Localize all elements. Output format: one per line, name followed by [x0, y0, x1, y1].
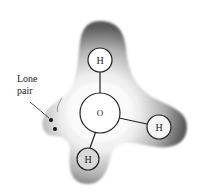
hydronium-diagram: O H H H Lone pair — [0, 0, 202, 196]
lone-pair-label: Lone pair — [17, 73, 49, 118]
atom-oxygen: O — [80, 93, 120, 133]
atom-hydrogen-top: H — [88, 48, 112, 72]
atom-hydrogen-bottom: H — [77, 148, 99, 170]
hydrogen-right-symbol: H — [155, 122, 162, 133]
lone-pair-electron-1 — [49, 118, 53, 122]
hydrogen-top-symbol: H — [96, 55, 103, 66]
label-line-1: Lone — [17, 73, 38, 84]
leader-line — [30, 102, 49, 118]
atom-hydrogen-right: H — [147, 115, 171, 139]
oxygen-symbol: O — [97, 108, 104, 118]
hydrogen-bottom-symbol: H — [84, 154, 91, 165]
lone-pair-electron-2 — [53, 127, 57, 131]
label-line-2: pair — [17, 85, 33, 96]
